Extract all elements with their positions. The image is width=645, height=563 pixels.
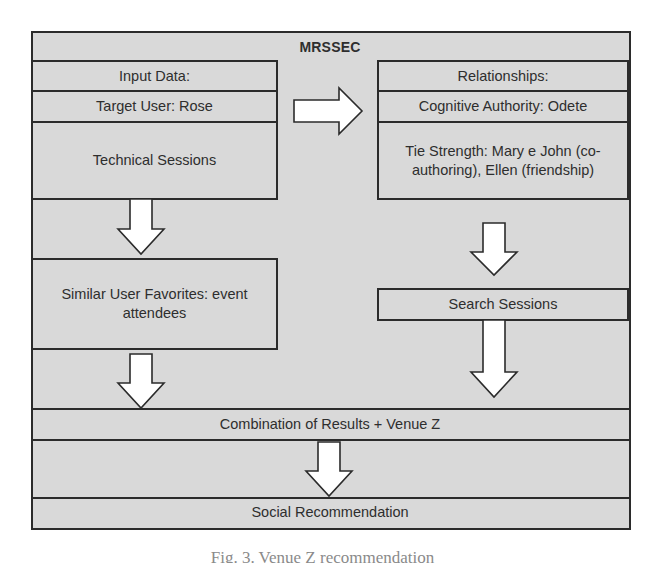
similar-user-favorites-label: Similar User Favorites: event attendees <box>33 260 276 348</box>
social-recommendation-label: Social Recommendation <box>33 499 627 526</box>
arrow-down-icon <box>470 320 518 398</box>
figure-caption: Fig. 3. Venue Z recommendation <box>0 545 645 563</box>
arrow-down-icon <box>117 199 165 255</box>
cognitive-authority-label: Cognitive Authority: Odete <box>379 92 627 121</box>
input-data-header: Input Data: <box>33 62 276 90</box>
arrow-down-icon <box>117 353 165 409</box>
relationships-header: Relationships: <box>379 62 627 90</box>
target-user-label: Target User: Rose <box>33 92 276 121</box>
arrow-right-icon <box>293 87 363 135</box>
tie-strength-label: Tie Strength: Mary e John (co-authoring)… <box>381 123 625 198</box>
technical-sessions-label: Technical Sessions <box>33 123 276 198</box>
search-sessions-label: Search Sessions <box>379 290 627 319</box>
combination-label: Combination of Results + Venue Z <box>33 410 627 439</box>
arrow-down-icon <box>470 222 518 276</box>
arrow-down-icon <box>305 441 353 497</box>
diagram-title: MRSSEC <box>33 33 627 61</box>
